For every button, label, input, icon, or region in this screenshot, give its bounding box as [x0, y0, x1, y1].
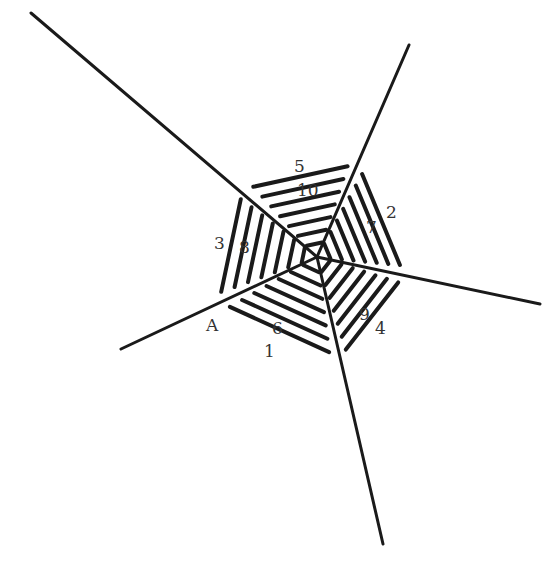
ray-bottom — [317, 257, 383, 544]
label-7: 7 — [366, 217, 377, 237]
label-9: 9 — [359, 304, 370, 324]
web-segment — [324, 244, 330, 259]
web-segment — [302, 248, 305, 263]
web-segment — [288, 240, 294, 268]
label-A: A — [205, 315, 219, 335]
web-segment — [322, 261, 330, 272]
web-segment — [331, 232, 342, 259]
label-5: 5 — [294, 156, 305, 176]
label-6: 6 — [272, 318, 283, 338]
web-segment — [289, 217, 331, 226]
web-segment — [298, 230, 326, 236]
ray-upper-left — [31, 13, 317, 257]
pentagonal-web-diagram: 5102738A6194 — [0, 0, 559, 571]
radial-lines — [31, 13, 540, 544]
label-3: 3 — [214, 233, 225, 253]
web-segment — [303, 265, 319, 272]
label-1: 1 — [264, 341, 275, 361]
web-segment — [291, 272, 321, 286]
web-segment — [346, 282, 398, 349]
label-10: 10 — [297, 180, 319, 200]
ray-right — [317, 257, 540, 304]
web-segment — [280, 204, 335, 216]
web-segment — [275, 232, 284, 273]
web-segment — [261, 224, 272, 278]
web-segment — [248, 215, 262, 282]
web-segment — [326, 265, 342, 285]
label-8: 8 — [239, 237, 250, 257]
web-segment — [343, 209, 365, 262]
web-segment — [307, 243, 322, 246]
label-4: 4 — [375, 318, 386, 338]
label-2: 2 — [386, 202, 397, 222]
web-segment — [267, 286, 325, 312]
